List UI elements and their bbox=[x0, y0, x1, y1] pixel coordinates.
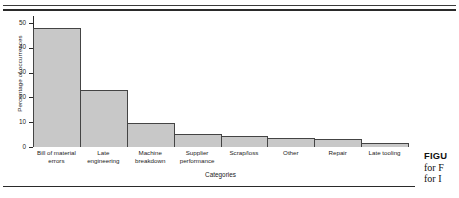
bar bbox=[127, 123, 175, 147]
bar bbox=[33, 28, 81, 147]
x-axis-tick-label-line: Repair bbox=[314, 149, 361, 157]
figure-caption: FIGU for F for I bbox=[424, 150, 459, 185]
x-axis-tick-labels: Bill of materialerrorsLateengineeringMac… bbox=[33, 149, 408, 165]
y-axis-tick-label: 40 bbox=[9, 44, 26, 50]
x-axis-tick-label-line: breakdown bbox=[127, 157, 174, 165]
y-axis-tick bbox=[29, 147, 33, 148]
bar bbox=[80, 90, 128, 147]
x-axis-tick-label-line: Bill of material bbox=[33, 149, 80, 157]
bar bbox=[174, 134, 222, 147]
x-axis-tick-label-line: Supplier bbox=[174, 149, 221, 157]
pareto-chart-figure: Percentage of occurrences 01020304050 Bi… bbox=[0, 8, 415, 186]
x-axis-tick-label: Lateengineering bbox=[80, 149, 127, 165]
x-axis-tick-label-line: engineering bbox=[80, 157, 127, 165]
x-axis-tick-label: Other bbox=[267, 149, 314, 165]
figure-caption-line-2: for F bbox=[424, 162, 459, 174]
bar-series bbox=[33, 18, 408, 147]
x-axis-tick-label: Bill of materialerrors bbox=[33, 149, 80, 165]
y-axis-tick-label: 10 bbox=[9, 119, 26, 125]
x-axis-tick-label: Scrap/loss bbox=[221, 149, 268, 165]
y-axis-tick-label: 50 bbox=[9, 20, 26, 26]
x-axis-tick-label: Late tooling bbox=[361, 149, 408, 165]
x-axis-tick-label-line: Scrap/loss bbox=[221, 149, 268, 157]
bar bbox=[221, 136, 269, 147]
figure-caption-line-3: for I bbox=[424, 173, 459, 185]
x-axis-tick-label: Repair bbox=[314, 149, 361, 165]
x-axis-tick-label: Machinebreakdown bbox=[127, 149, 174, 165]
x-axis-tick-label-line: Late tooling bbox=[361, 149, 408, 157]
x-axis-tick-label-line: Machine bbox=[127, 149, 174, 157]
x-axis-tick-label-line: Other bbox=[267, 149, 314, 157]
y-axis-tick-label: 30 bbox=[9, 69, 26, 75]
bar bbox=[267, 138, 315, 147]
bar bbox=[314, 139, 362, 147]
x-axis-tick-label: Supplierperformance bbox=[174, 149, 221, 165]
y-axis-tick-label: 0 bbox=[9, 144, 26, 150]
bar bbox=[361, 143, 409, 147]
bottom-horizontal-rule bbox=[3, 186, 415, 187]
figure-caption-label: FIGU bbox=[424, 150, 459, 162]
x-axis-tick-label-line: performance bbox=[174, 157, 221, 165]
plot-area: 01020304050 bbox=[33, 18, 408, 147]
x-axis-tick-label-line: Late bbox=[80, 149, 127, 157]
y-axis-tick-label: 20 bbox=[9, 94, 26, 100]
x-axis-tick-label-line: errors bbox=[33, 157, 80, 165]
x-axis-title: Categories bbox=[33, 171, 408, 178]
